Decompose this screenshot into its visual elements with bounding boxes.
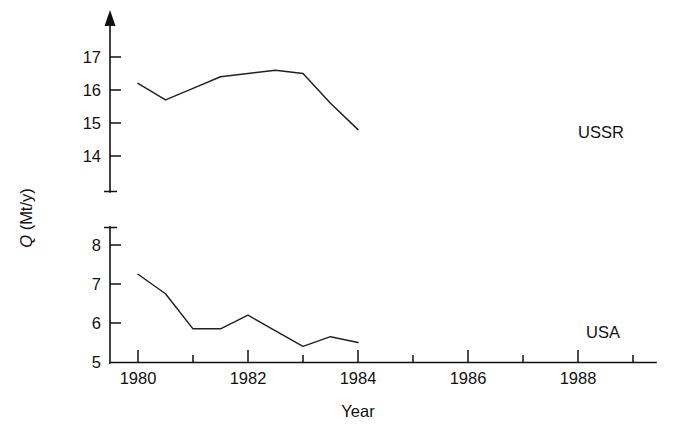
y-tick-label-15: 15 [83,114,101,132]
lower-y-axis [104,227,117,363]
y-tick-label-16: 16 [83,81,101,99]
series-line-usa [138,274,358,346]
lower-panel: 8 7 6 5 1980 1982 1984 1986 1988 USA [92,227,656,387]
y-axis-arrowhead [105,10,116,26]
series-label-ussr: USSR [578,123,624,141]
x-tick-label-1984: 1984 [340,369,377,387]
x-tick-label-1982: 1982 [230,369,267,387]
x-tick-label-1980: 1980 [120,369,157,387]
y-axis-title-symbol: Q [17,235,35,248]
y-tick-label-6: 6 [92,314,101,332]
upper-y-ticks [104,57,121,192]
lower-y-ticks [110,245,121,323]
svg-text:Q (Mt/y): Q (Mt/y) [17,188,35,248]
chart-figure: 17 16 15 14 USSR 8 7 6 5 [0,0,674,436]
upper-panel: 17 16 15 14 USSR [83,10,624,192]
y-tick-label-17: 17 [83,48,101,66]
y-tick-label-7: 7 [92,275,101,293]
y-axis-title: Q (Mt/y) [17,188,35,248]
series-label-usa: USA [586,323,620,341]
series-line-ussr [138,70,358,129]
x-axis-title: Year [341,402,375,420]
y-axis-title-units: (Mt/y) [17,188,35,235]
y-tick-label-8: 8 [92,236,101,254]
x-ticks [138,350,633,362]
y-tick-label-5: 5 [92,353,101,371]
upper-y-axis [105,10,116,192]
y-tick-label-14: 14 [83,147,101,165]
x-tick-label-1986: 1986 [450,369,487,387]
x-tick-label-1988: 1988 [560,369,597,387]
